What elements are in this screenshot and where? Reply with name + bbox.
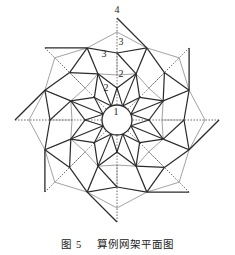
member [55, 48, 87, 58]
ring-label: 2 [119, 68, 124, 79]
member [111, 134, 117, 152]
member [29, 90, 45, 120]
member [70, 167, 88, 192]
member [45, 120, 50, 150]
member [87, 192, 117, 208]
member [50, 101, 71, 120]
member [45, 90, 71, 101]
member [45, 150, 70, 168]
member [71, 101, 72, 120]
member [189, 120, 205, 150]
member [117, 187, 147, 192]
member [117, 88, 123, 106]
member [117, 48, 147, 53]
member [15, 90, 45, 120]
member [29, 120, 45, 150]
ring-label: 2 [104, 82, 109, 93]
member [98, 166, 117, 187]
member [87, 166, 98, 192]
member [45, 150, 55, 182]
member [147, 48, 179, 58]
member [87, 187, 117, 192]
member [136, 166, 164, 167]
member [55, 182, 87, 192]
member [164, 167, 189, 192]
member [147, 48, 165, 73]
member [87, 32, 117, 48]
member [189, 90, 205, 120]
member [70, 73, 98, 74]
member [164, 150, 189, 168]
member [87, 192, 117, 222]
ring-label: 1 [114, 106, 119, 117]
member [117, 134, 123, 152]
member [164, 73, 189, 91]
member [45, 48, 70, 73]
member [111, 88, 117, 106]
member [163, 73, 164, 101]
member [117, 165, 136, 166]
member [45, 90, 50, 120]
member [147, 167, 165, 192]
member [179, 150, 189, 182]
member [45, 167, 70, 192]
member [117, 192, 147, 208]
member [87, 48, 98, 74]
member [71, 120, 72, 139]
caption-number: 图 5 [61, 239, 82, 250]
member [45, 73, 70, 91]
space-frame-plan-diagram: 433221 [0, 0, 235, 232]
member [70, 48, 88, 73]
member [45, 58, 55, 90]
member [98, 74, 117, 75]
member [136, 166, 147, 192]
member [85, 114, 103, 120]
member [128, 131, 140, 143]
member [162, 120, 163, 139]
member [179, 58, 189, 90]
member [163, 139, 189, 150]
member [85, 120, 103, 126]
ring-label: 4 [115, 4, 120, 15]
member [70, 139, 71, 167]
member [162, 101, 163, 120]
member [128, 97, 140, 109]
member [94, 97, 106, 109]
figure-caption: 图 5 算例网架平面图 [0, 236, 235, 251]
member [184, 90, 189, 120]
caption-title: 算例网架平面图 [97, 239, 174, 250]
member [189, 120, 219, 150]
member [136, 48, 147, 74]
member [164, 48, 189, 73]
member [131, 114, 149, 120]
member [184, 120, 189, 150]
member [131, 120, 149, 126]
member [147, 182, 179, 192]
member [163, 90, 189, 101]
member [45, 139, 71, 150]
ring-label: 3 [102, 48, 107, 59]
ring-label: 3 [119, 36, 124, 47]
member [98, 165, 117, 166]
member [94, 131, 106, 143]
member [163, 120, 184, 139]
